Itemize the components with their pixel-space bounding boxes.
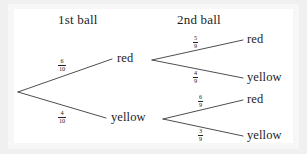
node-level2-red-red: red xyxy=(247,32,263,47)
probability-tree-figure: 1st ball 2nd ball red yellow red yellow … xyxy=(0,0,307,154)
probability-label-red-red-5-9: 5 9 xyxy=(193,35,198,49)
heading-first-ball: 1st ball xyxy=(58,12,98,28)
node-level1-red: red xyxy=(117,51,133,66)
node-level2-yellow-yellow: yellow xyxy=(247,128,282,143)
fraction-denominator: 9 xyxy=(193,43,198,50)
fraction-denominator: 10 xyxy=(58,118,66,125)
fraction-denominator: 9 xyxy=(198,136,203,143)
probability-label-yellow-4-10: 4 10 xyxy=(58,110,66,124)
fraction-denominator: 10 xyxy=(58,66,66,73)
probability-label-yellow-red-6-9: 6 9 xyxy=(198,94,203,108)
fraction-denominator: 9 xyxy=(198,102,203,109)
node-level2-red-yellow: yellow xyxy=(247,70,282,85)
fraction-denominator: 9 xyxy=(193,78,198,85)
probability-label-red-yellow-4-9: 4 9 xyxy=(193,70,198,84)
node-level2-yellow-red: red xyxy=(247,92,263,107)
probability-label-red-6-10: 6 10 xyxy=(58,58,66,72)
node-level1-yellow: yellow xyxy=(111,110,146,125)
probability-label-yellow-yellow-3-9: 3 9 xyxy=(198,128,203,142)
heading-second-ball: 2nd ball xyxy=(177,12,221,28)
